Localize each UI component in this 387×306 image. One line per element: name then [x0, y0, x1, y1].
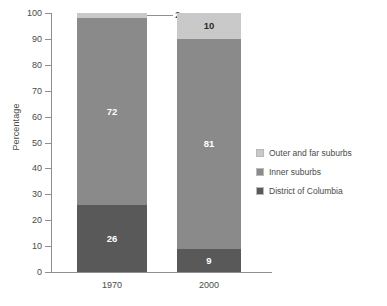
bar-2000[interactable]: 10 81 9	[177, 13, 241, 272]
y-tick-60	[45, 117, 51, 118]
bar-1970-inner-suburbs-value: 72	[107, 107, 118, 117]
y-tick-label-10: 10	[2, 242, 42, 251]
bar-2000-segment-outer-suburbs[interactable]: 10	[177, 13, 241, 39]
y-tick-label-100: 100	[2, 9, 42, 18]
y-tick-label-20: 20	[2, 216, 42, 225]
y-tick-label-30: 30	[2, 190, 42, 199]
y-tick-20	[45, 220, 51, 221]
bar-2000-district-of-columbia-value: 9	[206, 256, 211, 266]
bar-1970-segment-district-of-columbia[interactable]: 26	[77, 205, 147, 272]
y-tick-label-60: 60	[2, 113, 42, 122]
y-tick-100	[45, 13, 51, 14]
legend-swatch-district-of-columbia	[256, 187, 264, 195]
legend-item-outer-and-far-suburbs[interactable]: Outer and far suburbs	[256, 148, 352, 158]
y-tick-70	[45, 91, 51, 92]
y-tick-50	[45, 143, 51, 144]
y-tick-30	[45, 194, 51, 195]
bar-2000-segment-district-of-columbia[interactable]: 9	[177, 249, 241, 272]
bar-2000-segment-inner-suburbs[interactable]: 81	[177, 39, 241, 249]
bar-1970[interactable]: 72 26	[77, 13, 147, 272]
y-tick-80	[45, 65, 51, 66]
y-tick-label-50: 50	[2, 139, 42, 148]
stacked-bar-chart: Percentage 100 90 80 70 60 50 40 30 20 1…	[0, 0, 387, 306]
x-axis-label-1970: 1970	[72, 280, 152, 290]
y-tick-label-70: 70	[2, 87, 42, 96]
legend-label-district-of-columbia: District of Columbia	[269, 187, 343, 196]
x-axis-line	[51, 272, 272, 273]
y-tick-label-40: 40	[2, 164, 42, 173]
legend-label-outer-and-far-suburbs: Outer and far suburbs	[269, 149, 352, 158]
x-axis-label-2000: 2000	[169, 280, 249, 290]
y-tick-90	[45, 39, 51, 40]
y-tick-0	[45, 272, 51, 273]
bar-1970-segment-inner-suburbs[interactable]: 72	[77, 18, 147, 204]
legend-item-district-of-columbia[interactable]: District of Columbia	[256, 186, 352, 196]
legend: Outer and far suburbs Inner suburbs Dist…	[256, 148, 352, 205]
y-axis-line	[51, 13, 52, 273]
y-tick-label-0: 0	[2, 268, 42, 277]
y-tick-10	[45, 246, 51, 247]
legend-swatch-inner-suburbs	[256, 168, 264, 176]
y-tick-40	[45, 168, 51, 169]
bar-2000-outer-suburbs-value: 10	[204, 21, 215, 31]
legend-item-inner-suburbs[interactable]: Inner suburbs	[256, 167, 352, 177]
bar-2000-inner-suburbs-value: 81	[204, 139, 215, 149]
callout-leader-line-1970-outer-suburbs	[147, 15, 173, 16]
y-tick-label-90: 90	[2, 35, 42, 44]
legend-swatch-outer-and-far-suburbs	[256, 149, 264, 157]
y-tick-label-80: 80	[2, 61, 42, 70]
legend-label-inner-suburbs: Inner suburbs	[269, 168, 321, 177]
bar-1970-district-of-columbia-value: 26	[107, 234, 118, 244]
